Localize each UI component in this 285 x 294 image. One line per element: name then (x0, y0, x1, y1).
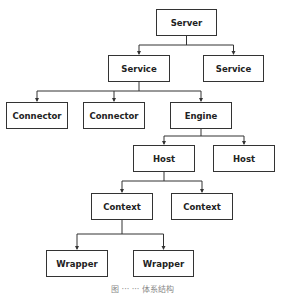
node-context1: Context (91, 193, 153, 220)
node-host2: Host (213, 145, 275, 172)
node-connector2: Connector (83, 102, 145, 129)
node-wrapper1: Wrapper (46, 250, 108, 277)
node-host1: Host (133, 145, 195, 172)
node-server: Server (156, 9, 217, 36)
node-context2: Context (171, 193, 233, 220)
node-connector1: Connector (6, 102, 68, 129)
node-service2: Service (203, 55, 264, 82)
node-service1: Service (108, 55, 170, 82)
node-engine: Engine (170, 102, 232, 129)
figure-caption: 图 ··· ··· 体系结构 (0, 283, 285, 294)
node-wrapper2: Wrapper (133, 250, 194, 277)
